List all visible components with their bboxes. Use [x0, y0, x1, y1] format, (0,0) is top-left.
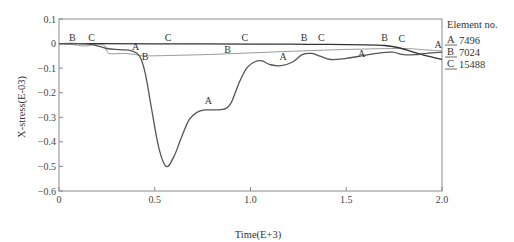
y-tick-label: −0.6	[38, 186, 56, 197]
stress-chart: 0.10−0.1−0.2−0.3−0.4−0.5−0.600.51.01.52.…	[0, 0, 514, 242]
y-tick-label: −0.4	[38, 136, 56, 147]
y-tick-label: −0.2	[38, 87, 56, 98]
legend-marker: A	[447, 34, 455, 45]
legend-label: 7024	[459, 47, 481, 58]
y-axis-title: X-stress(E-03)	[16, 76, 28, 138]
y-tick-label: −0.3	[38, 112, 56, 123]
y-tick-label: −0.1	[38, 63, 56, 74]
series-A-line	[59, 44, 442, 167]
curve-marker-A: A	[279, 51, 287, 62]
x-tick-label: 1.0	[244, 194, 257, 205]
curve-marker-C: C	[88, 32, 95, 43]
x-tick-label: 0.5	[149, 194, 162, 205]
x-tick-label: 2.0	[436, 194, 449, 205]
curve-marker-B: B	[301, 32, 308, 43]
legend-marker: C	[447, 58, 454, 69]
curve-marker-B: B	[381, 32, 388, 43]
curve-markers: BCABCBCAABCABCA	[69, 32, 442, 106]
curve-marker-C: C	[398, 33, 405, 44]
legend-marker: B	[447, 46, 454, 57]
curve-marker-A: A	[358, 48, 366, 59]
curve-marker-C: C	[241, 32, 248, 43]
legend-label: 15488	[459, 59, 485, 70]
x-axis-title: Time(E+3)	[235, 229, 282, 241]
curve-marker-B: B	[142, 51, 149, 62]
x-tick-label: 0	[57, 194, 62, 205]
curve-marker-A: A	[435, 39, 443, 50]
legend: Element no. A7496B7024C15488	[445, 19, 498, 70]
curve-marker-A: A	[132, 41, 140, 52]
x-tick-label: 1.5	[340, 194, 353, 205]
plot-frame	[59, 19, 442, 191]
legend-label: 7496	[459, 35, 480, 46]
y-tick-label: −0.5	[38, 161, 56, 172]
curve-marker-B: B	[69, 32, 76, 43]
curve-marker-C: C	[318, 32, 325, 43]
curve-marker-C: C	[165, 32, 172, 43]
y-tick-label: 0	[51, 38, 56, 49]
series-layer	[59, 44, 442, 167]
curve-marker-B: B	[224, 44, 231, 55]
legend-entry-C: C15488	[445, 58, 485, 70]
series-C-line	[59, 44, 442, 60]
legend-entry-B: B7024	[445, 46, 481, 58]
curve-marker-A: A	[205, 95, 213, 106]
y-tick-label: 0.1	[44, 14, 57, 25]
legend-title: Element no.	[447, 19, 498, 30]
legend-entry-A: A7496	[445, 34, 480, 46]
